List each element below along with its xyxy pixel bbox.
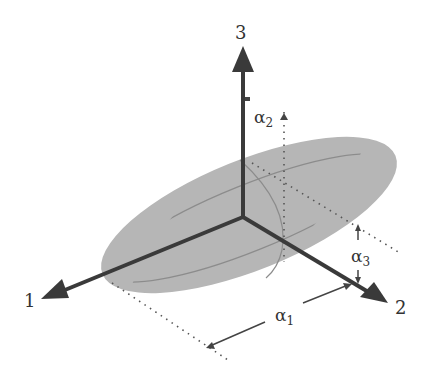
axis-3-label: 3	[235, 22, 246, 43]
axis-2-arrowhead-icon	[360, 282, 388, 303]
axis-2-label: 2	[395, 297, 406, 318]
axis-1-label: 1	[24, 290, 35, 311]
alpha-2-label: α2	[254, 107, 273, 130]
ellipsoid-diagram: 3 1 2 α2 α3 α1	[0, 0, 427, 383]
axis-3-arrowhead-icon	[232, 46, 254, 72]
alpha-3-label: α3	[351, 246, 370, 269]
axis-1-arrowhead-icon	[41, 279, 69, 299]
alpha-1-label: α1	[275, 305, 294, 328]
